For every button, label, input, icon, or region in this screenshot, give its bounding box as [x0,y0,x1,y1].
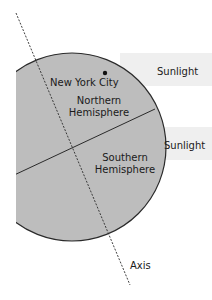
sunlight-label-bottom: Sunlight [164,140,205,152]
axis-label: Axis [130,260,151,272]
northern-line2: Hemisphere [64,107,134,119]
southern-line1: Southern [90,152,160,164]
northern-hemisphere-label: Northern Hemisphere [64,95,134,119]
city-label: New York City [50,77,119,89]
northern-line1: Northern [64,95,134,107]
southern-hemisphere-label: Southern Hemisphere [90,152,160,176]
city-marker-icon [103,71,107,75]
sunlight-label-top: Sunlight [157,66,198,78]
southern-line2: Hemisphere [90,164,160,176]
